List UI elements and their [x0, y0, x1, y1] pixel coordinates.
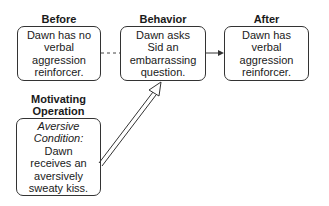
double-arrow-connector [99, 82, 161, 166]
after-title: After [224, 13, 309, 25]
mo-line: aversively [34, 170, 83, 183]
before-box: Dawn has no verbal aggression reinforcer… [17, 26, 101, 81]
mo-title-line: Motivating [16, 93, 101, 105]
after-line: reinforcer. [242, 66, 291, 79]
after-line: Dawn has [242, 29, 291, 42]
motivating-operation-title: Motivating Operation [16, 93, 101, 117]
behavior-line: question. [141, 66, 186, 79]
behavior-line: embarrassing [130, 54, 197, 67]
before-line: verbal [44, 41, 74, 54]
behavior-box: Dawn asks Sid an embarrassing question. [120, 26, 206, 81]
before-line: Dawn has no [27, 29, 91, 42]
before-title: Before [17, 13, 101, 25]
hollow-arrowhead-icon [149, 82, 161, 96]
before-line: reinforcer. [35, 66, 84, 79]
behavior-line: Sid an [147, 41, 178, 54]
mo-line: Dawn [44, 145, 72, 158]
mo-title-line: Operation [16, 105, 101, 117]
motivating-operation-box: Aversive Condition: Dawn receives an ave… [16, 118, 101, 196]
mo-line: receives an [30, 157, 86, 170]
after-box: Dawn has verbal aggression reinforcer. [224, 26, 309, 81]
after-line: aggression [240, 54, 294, 67]
behavior-line: Dawn asks [136, 29, 190, 42]
mo-italic-line: Condition: [34, 132, 84, 145]
behavior-title: Behavior [120, 13, 206, 25]
mo-line: sweaty kiss. [29, 182, 88, 195]
after-line: verbal [252, 41, 282, 54]
mo-italic-line: Aversive [38, 120, 80, 133]
before-line: aggression [32, 54, 86, 67]
